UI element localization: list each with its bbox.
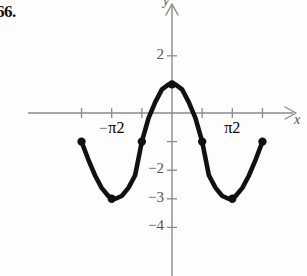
curve-point-marker bbox=[168, 80, 176, 88]
curve-point-marker bbox=[198, 137, 206, 145]
curve-point-marker bbox=[258, 137, 266, 145]
x-tick-label-sign: − bbox=[99, 120, 107, 137]
curve-point-marker bbox=[228, 195, 236, 203]
x-tick-label: π2 bbox=[214, 120, 250, 137]
coordinate-plot bbox=[0, 0, 307, 276]
x-tick-label: −π2 bbox=[94, 120, 130, 137]
x-tick-label-fraction: π2 bbox=[224, 120, 240, 137]
y-axis-label: y bbox=[163, 0, 169, 9]
y-tick-label: 2 bbox=[132, 46, 164, 63]
fraction-denominator: 2 bbox=[116, 119, 124, 136]
y-tick-label: −4 bbox=[132, 217, 164, 234]
y-tick-label: −2 bbox=[132, 160, 164, 177]
curve-point-marker bbox=[138, 137, 146, 145]
graph-figure: 66. x y 2−2−3−4 −π2π2 bbox=[0, 0, 307, 276]
fraction-denominator: 2 bbox=[232, 119, 240, 136]
curve-point-marker bbox=[107, 195, 115, 203]
x-tick-label-fraction: π2 bbox=[108, 120, 124, 137]
y-tick-label: −3 bbox=[132, 189, 164, 206]
curve-point-marker bbox=[77, 137, 85, 145]
x-axis-label: x bbox=[294, 112, 300, 128]
